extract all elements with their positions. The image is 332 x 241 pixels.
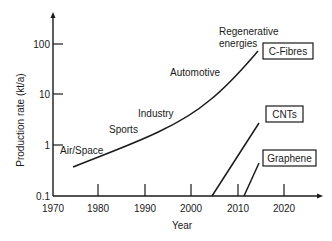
y-tick-label-10: 10 bbox=[39, 89, 51, 100]
graphene-label: Graphene bbox=[267, 153, 312, 164]
annotation-air-space: Air/Space bbox=[60, 145, 104, 156]
annotation-automotive: Automotive bbox=[170, 67, 220, 78]
y-tick-label-0-1: 0.1 bbox=[36, 191, 50, 202]
annotation-regenerative-line2: energies bbox=[219, 38, 257, 49]
y-tick-label-100: 100 bbox=[33, 39, 50, 50]
annotation-sports: Sports bbox=[109, 124, 138, 135]
y-axis-title: Production rate (kt/a) bbox=[15, 73, 26, 166]
x-tick-label-1970: 1970 bbox=[42, 203, 65, 214]
annotation-regenerative-line1: Regenerative bbox=[219, 26, 279, 37]
x-tick-label-1990: 1990 bbox=[134, 203, 157, 214]
c-fibres-label: C-Fibres bbox=[269, 46, 307, 57]
graphene-line bbox=[244, 163, 259, 196]
x-axis-title: Year bbox=[172, 220, 193, 231]
x-axis-arrow-icon bbox=[317, 194, 323, 199]
x-tick-label-2010: 2010 bbox=[227, 203, 250, 214]
cnts-line bbox=[212, 123, 259, 196]
cnts-label: CNTs bbox=[272, 109, 296, 120]
x-tick-label-1980: 1980 bbox=[87, 203, 110, 214]
x-tick-label-2000: 2000 bbox=[180, 203, 203, 214]
y-tick-label-1: 1 bbox=[44, 140, 50, 151]
annotation-industry: Industry bbox=[138, 108, 174, 119]
x-tick-label-2020: 2020 bbox=[273, 203, 296, 214]
y-axis-arrow-icon bbox=[51, 12, 56, 18]
production-rate-chart: 100 10 1 0.1 1970 1980 1990 2000 2010 20… bbox=[0, 0, 332, 241]
